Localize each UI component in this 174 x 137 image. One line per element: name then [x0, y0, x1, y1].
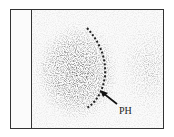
arrow-icon [99, 90, 119, 106]
stippled-density-image [32, 10, 164, 128]
ph-annotation-label: PH [119, 105, 132, 116]
figure-panel: PH [10, 9, 164, 129]
